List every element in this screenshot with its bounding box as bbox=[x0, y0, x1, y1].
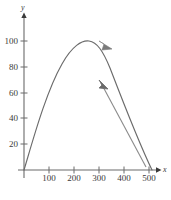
y-tick-label-40: 40 bbox=[0, 114, 18, 123]
y-tick-label-60: 60 bbox=[0, 89, 18, 98]
y-axis-label: y bbox=[21, 4, 25, 12]
y-tick-label-80: 80 bbox=[0, 63, 18, 72]
y-tick-label-100: 100 bbox=[0, 37, 18, 46]
trajectory-figure: 100 200 300 400 500 20 40 60 80 100 y x bbox=[0, 0, 171, 200]
trajectory-curve bbox=[24, 41, 152, 170]
x-axis-label: x bbox=[163, 166, 167, 174]
x-tick-label-500: 500 bbox=[142, 174, 156, 183]
descent-direction-line bbox=[101, 83, 146, 167]
direction-arrow-descent bbox=[99, 80, 108, 89]
direction-arrow-apex bbox=[99, 41, 112, 50]
x-tick-label-300: 300 bbox=[92, 174, 106, 183]
x-tick-label-200: 200 bbox=[67, 174, 81, 183]
plot-canvas bbox=[0, 0, 171, 200]
x-tick-label-100: 100 bbox=[42, 174, 56, 183]
x-tick-label-400: 400 bbox=[117, 174, 131, 183]
y-tick-label-20: 20 bbox=[0, 140, 18, 149]
